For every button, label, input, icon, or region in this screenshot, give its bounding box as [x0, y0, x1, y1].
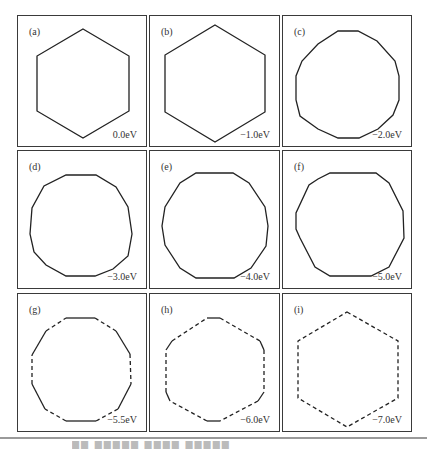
panel-label: (c) [294, 26, 305, 37]
panel-label: (e) [161, 161, 172, 172]
energy-label: −5.0eV [372, 271, 402, 282]
energy-label: −6.0eV [240, 414, 270, 425]
panel-label: (i) [294, 304, 303, 315]
panel-label: (b) [161, 26, 173, 37]
panel-label: (g) [29, 304, 41, 315]
energy-label: 0.0eV [113, 129, 137, 140]
panel-label: (a) [29, 26, 40, 37]
energy-label: −1.0eV [240, 129, 270, 140]
panel-a: (a) 0.0eV [17, 15, 147, 147]
energy-label: −5.5eV [107, 414, 137, 425]
energy-label: −7.0eV [372, 414, 402, 425]
panel-d: (d) −3.0eV [17, 150, 147, 289]
caption-divider [0, 437, 427, 439]
panel-label: (h) [161, 304, 173, 315]
panel-h: (h) −6.0eV [149, 293, 280, 432]
panel-e: (e) −4.0eV [149, 150, 280, 289]
panel-label: (f) [294, 161, 304, 172]
panel-g: (g) −5.5eV [17, 293, 147, 432]
panel-f: (f) −5.0eV [282, 150, 412, 289]
energy-label: −4.0eV [240, 271, 270, 282]
panel-label: (d) [29, 161, 41, 172]
energy-label: −2.0eV [372, 129, 402, 140]
panel-c: (c) −2.0eV [282, 15, 412, 147]
figure-caption-cut: ██ █████ ████ █████ [72, 441, 392, 449]
panel-b: (b) −1.0eV [149, 15, 280, 147]
energy-label: −3.0eV [107, 271, 137, 282]
panel-i: (i) −7.0eV [282, 293, 412, 432]
